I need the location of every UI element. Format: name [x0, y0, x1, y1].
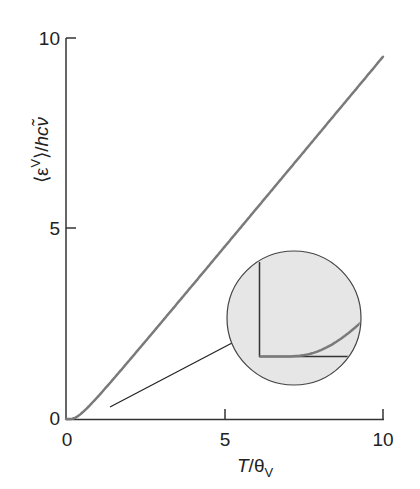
y-axis-label-sup: V — [28, 159, 43, 168]
x-tick-label-5: 5 — [220, 429, 231, 450]
inset-magnifier — [227, 251, 410, 385]
x-axis-label-slash: /θ — [249, 455, 265, 476]
x-axis-label-sub: V — [264, 465, 273, 480]
x-tick-label-10: 10 — [372, 429, 393, 450]
x-axis-label: T/θV — [237, 455, 273, 480]
y-axis-label: ⟨εV⟩/hcν̃ — [28, 116, 52, 183]
y-tick-label-10: 10 — [39, 28, 60, 49]
x-tick-label-0: 0 — [62, 429, 73, 450]
y-tick-label-0: 0 — [49, 408, 60, 429]
chart: 10 5 0 0 5 10 T/θV ⟨εV⟩/hcν̃ — [0, 0, 420, 489]
y-tick-label-5: 5 — [49, 218, 60, 239]
y-axis-label-open: ⟨ε — [31, 167, 52, 183]
y-axis-label-hc: hc — [31, 126, 52, 147]
inset-connector — [110, 343, 232, 407]
y-axis-label-nu: ν̃ — [31, 116, 52, 127]
y-axis-label-close: ⟩/ — [31, 146, 52, 159]
svg-text:⟨εV⟩/hcν̃: ⟨εV⟩/hcν̃ — [28, 116, 52, 183]
